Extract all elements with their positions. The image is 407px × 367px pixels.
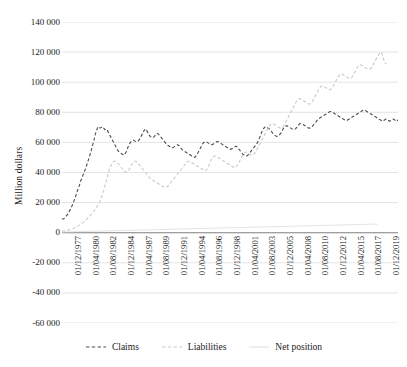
y-axis-tick-label: 60 000	[4, 138, 60, 147]
x-axis-tick-label: 01/08/2003	[268, 236, 277, 275]
legend-line-swatch	[248, 343, 270, 351]
y-axis-tick-label: 20 000	[4, 198, 60, 207]
y-axis-tick-label: 120 000	[4, 48, 60, 57]
x-axis-tick-label: 01/04/1987	[145, 236, 154, 275]
x-axis-tick-label: 01/12/2005	[286, 236, 295, 275]
x-axis-tick-label: 01/12/1991	[180, 236, 189, 275]
y-axis-tick-label: 0	[4, 228, 60, 237]
x-axis-tick-label: 01/12/2012	[339, 236, 348, 275]
x-axis-tick-label: 01/08/1982	[109, 236, 118, 275]
y-axis-tick-label: 40 000	[4, 168, 60, 177]
y-axis-tick-label: 80 000	[4, 108, 60, 117]
y-axis-tick-label: -20 000	[4, 258, 60, 267]
legend-item[interactable]: Claims	[85, 342, 139, 352]
x-axis-tick-label: 01/08/2010	[321, 236, 330, 275]
x-axis-tick-label: 01/12/1984	[127, 236, 136, 275]
x-axis-tick-label: 01/12/1977	[74, 236, 83, 275]
x-axis-tick-label: 01/08/1996	[215, 236, 224, 275]
y-axis-tick-label: 140 000	[4, 18, 60, 27]
series-line-claims	[62, 110, 398, 219]
x-axis-tick-label: 01/08/1989	[162, 236, 171, 275]
x-axis-tick-label: 01/12/2019	[392, 236, 401, 275]
x-axis-tick-label: 01/04/2008	[304, 236, 313, 275]
line-chart: Million dollars 140 000120 000100 00080 …	[0, 0, 407, 367]
x-axis-tick-label: 01/12/1998	[233, 236, 242, 275]
y-axis-tick-label: -40 000	[4, 288, 60, 297]
x-axis-tick-labels: 01/12/197701/04/198001/08/198201/12/1984…	[62, 236, 398, 316]
legend-item[interactable]: Net position	[248, 342, 322, 352]
x-axis-tick-label: 01/04/1994	[198, 236, 207, 275]
x-axis-tick-label: 01/04/2015	[357, 236, 366, 275]
legend-item[interactable]: Liabilities	[161, 342, 227, 352]
legend-item-label: Net position	[275, 342, 322, 352]
x-axis-tick-label: 01/04/1980	[92, 236, 101, 275]
legend-line-swatch	[85, 343, 107, 351]
legend-item-label: Claims	[112, 342, 139, 352]
y-axis-tick-label: -60 000	[4, 319, 60, 328]
legend-line-swatch	[161, 343, 183, 351]
x-axis-tick-label: 01/08/2017	[374, 236, 383, 275]
legend-item-label: Liabilities	[188, 342, 227, 352]
y-axis-tick-label: 100 000	[4, 78, 60, 87]
y-axis-tick-labels: 140 000120 000100 00080 00060 00040 0002…	[0, 0, 60, 367]
chart-legend: ClaimsLiabilitiesNet position	[0, 336, 407, 358]
series-line-net-position	[62, 224, 378, 232]
series-line-liabilities	[62, 52, 386, 231]
x-axis-tick-label: 01/04/2001	[251, 236, 260, 275]
